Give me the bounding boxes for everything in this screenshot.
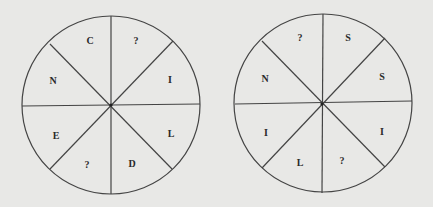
right-wheel-letter-top-right: S — [345, 32, 351, 43]
left-wheel: C ? I L D ? E N — [22, 16, 200, 194]
right-wheel-letter-bottom-left: L — [297, 157, 304, 168]
left-wheel-letter-top-left: C — [86, 35, 93, 46]
right-wheel-letter-left-lower: I — [264, 127, 268, 138]
left-wheel-letter-left-lower: E — [53, 130, 60, 141]
right-wheel-center-dot — [320, 102, 323, 105]
right-wheel-letter-top-left: ? — [298, 32, 303, 43]
right-wheel-letter-left-upper: N — [261, 73, 269, 84]
left-wheel-letter-top-right: ? — [134, 35, 139, 46]
right-wheel-letter-right-upper: S — [379, 71, 385, 82]
left-wheel-letter-right-upper: I — [168, 74, 172, 85]
right-wheel-letter-right-lower: I — [380, 126, 384, 137]
left-wheel-letter-right-lower: L — [168, 128, 175, 139]
puzzle-canvas: C ? I L D ? E N ? S S I ? L I N — [0, 0, 433, 207]
left-wheel-center-dot — [109, 103, 112, 106]
right-wheel-letter-bottom-right: ? — [340, 155, 345, 166]
left-wheel-letter-left-upper: N — [49, 75, 57, 86]
left-wheel-letter-bottom-left: ? — [85, 159, 90, 170]
left-wheel-letter-bottom-right: D — [128, 158, 135, 169]
right-wheel: ? S S I ? L I N — [234, 14, 412, 193]
